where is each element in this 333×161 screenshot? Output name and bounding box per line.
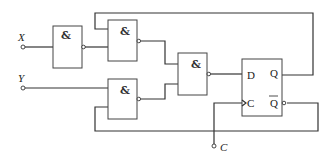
y-input-label: Y (18, 72, 26, 84)
x-input-label: X (17, 31, 26, 43)
qbar-pin-label: Q (270, 97, 278, 109)
d-flip-flop: D Q C Q (242, 59, 286, 116)
and-symbol: & (120, 25, 130, 38)
and-symbol: & (191, 58, 201, 71)
nand-gate-g4: & (178, 53, 211, 95)
c-pin-label: C (247, 97, 254, 109)
clock-input-label: C (220, 141, 228, 153)
circuit-diagram: X Y C & & & (0, 0, 333, 161)
nand-gate-g3: & (108, 79, 141, 119)
nand-gate-g1: & (53, 26, 85, 68)
d-pin-label: D (247, 69, 255, 81)
inverter-bubble (137, 97, 141, 101)
and-symbol: & (120, 84, 130, 97)
inverter-bubble (207, 72, 211, 76)
clock-input-terminal[interactable] (212, 144, 216, 148)
inverter-bubble (137, 39, 141, 43)
g3-to-g4-wire (141, 84, 178, 99)
and-symbol: & (61, 29, 71, 42)
nand-gate-g2: & (108, 20, 141, 61)
clock-wire (214, 103, 242, 144)
y-input-terminal[interactable] (21, 86, 25, 90)
q-pin-label: Q (270, 67, 278, 79)
qbar-inverter-bubble (282, 101, 286, 105)
inverter-bubble (82, 45, 86, 49)
g2-to-g4-wire (141, 41, 178, 64)
x-input-terminal[interactable] (21, 45, 25, 49)
